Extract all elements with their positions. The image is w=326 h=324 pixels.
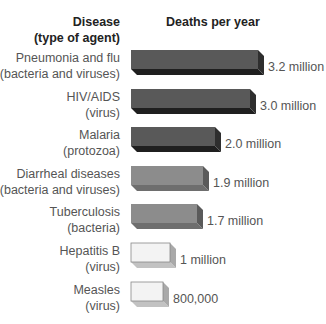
disease-header-label: Disease: [0, 14, 120, 30]
bar: [131, 89, 257, 115]
disease-agent: (virus): [0, 298, 120, 314]
chart-row: Tuberculosis(bacteria)1.7 million: [0, 203, 326, 241]
value-label: 2.0 million: [225, 137, 281, 151]
disease-name: Hepatitis B: [0, 243, 120, 259]
bar: [131, 50, 265, 76]
bar: [131, 127, 222, 153]
disease-column-header: Disease (type of agent): [0, 14, 120, 46]
value-label: 3.0 million: [260, 99, 316, 113]
disease-name: Diarrheal diseases: [0, 166, 120, 182]
bar: [131, 243, 177, 269]
deaths-column-header: Deaths per year: [166, 14, 260, 30]
value-label: 3.2 million: [268, 60, 324, 74]
disease-name: Tuberculosis: [0, 204, 120, 220]
bar: [131, 166, 210, 192]
bar: [131, 282, 170, 308]
disease-agent: (protozoa): [0, 143, 120, 159]
chart-row: HIV/AIDS(virus)3.0 million: [0, 88, 326, 126]
chart-row: Hepatitis B(virus)1 million: [0, 242, 326, 280]
disease-label: HIV/AIDS(virus): [0, 89, 120, 121]
disease-label: Tuberculosis(bacteria): [0, 204, 120, 236]
disease-label: Malaria(protozoa): [0, 127, 120, 159]
chart-row: Diarrheal diseases(bacteria and viruses)…: [0, 165, 326, 203]
disease-label: Pneumonia and flu(bacteria and viruses): [0, 50, 120, 82]
chart-row: Pneumonia and flu(bacteria and viruses)3…: [0, 49, 326, 87]
chart-row: Measles(virus)800,000: [0, 281, 326, 319]
value-label: 1.7 million: [207, 214, 263, 228]
agent-header-label: (type of agent): [0, 30, 120, 46]
disease-name: Pneumonia and flu: [0, 50, 120, 66]
disease-name: HIV/AIDS: [0, 89, 120, 105]
disease-name: Malaria: [0, 127, 120, 143]
value-label: 1.9 million: [213, 176, 269, 190]
disease-name: Measles: [0, 282, 120, 298]
disease-agent: (bacteria and viruses): [0, 66, 120, 82]
value-label: 1 million: [180, 253, 226, 267]
disease-agent: (bacteria): [0, 220, 120, 236]
disease-agent: (virus): [0, 259, 120, 275]
disease-label: Measles(virus): [0, 282, 120, 314]
disease-label: Hepatitis B(virus): [0, 243, 120, 275]
bar: [131, 204, 204, 230]
value-label: 800,000: [173, 292, 218, 306]
disease-label: Diarrheal diseases(bacteria and viruses): [0, 166, 120, 198]
disease-agent: (bacteria and viruses): [0, 182, 120, 198]
disease-agent: (virus): [0, 105, 120, 121]
chart-row: Malaria(protozoa)2.0 million: [0, 126, 326, 164]
